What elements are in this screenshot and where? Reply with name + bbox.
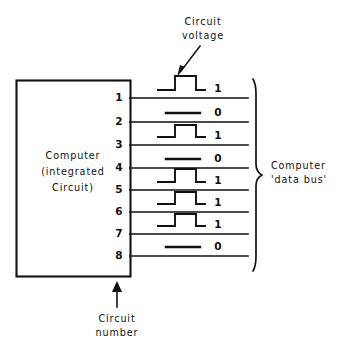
bit-value-7: 1 <box>214 218 221 230</box>
pin-number-8: 8 <box>115 249 123 261</box>
waveform-pulse-5 <box>158 169 205 182</box>
pin-number-5: 5 <box>115 183 123 195</box>
waveform-pulse-6 <box>158 192 205 204</box>
computer-ic-box <box>17 81 131 277</box>
circuit-number-arrow-icon <box>112 281 122 292</box>
diagram-canvas: Computer (integrated Circuit) 1 1 2 0 3 … <box>0 0 343 347</box>
waveform-pulse-7 <box>158 214 205 226</box>
waveform-pulse-3 <box>158 125 205 137</box>
pin-number-4: 4 <box>115 161 123 173</box>
diagram-root: Computer (integrated Circuit) 1 1 2 0 3 … <box>0 0 343 347</box>
bit-value-2: 0 <box>214 106 221 118</box>
computer-label-line-2: (integrated <box>41 166 105 177</box>
computer-label-line-3: Circuit) <box>52 182 94 193</box>
circuit-number-label-line-2: number <box>96 327 139 338</box>
data-bus-brace <box>253 79 262 271</box>
circuit-voltage-label-line-2: voltage <box>182 30 224 41</box>
bit-value-3: 1 <box>214 129 221 141</box>
circuit-voltage-label-line-1: Circuit <box>184 16 221 27</box>
data-bus-label-line-2: 'data bus' <box>271 174 327 185</box>
bit-value-6: 1 <box>214 196 221 208</box>
bit-value-1: 1 <box>214 82 221 94</box>
data-bus-label-line-1: Computer <box>271 160 326 171</box>
pin-number-7: 7 <box>115 227 123 239</box>
pin-number-6: 6 <box>115 205 123 217</box>
circuit-number-label-line-1: Circuit <box>98 313 135 324</box>
pin-number-2: 2 <box>115 115 123 127</box>
computer-label-line-1: Computer <box>46 150 101 161</box>
pin-number-1: 1 <box>115 91 123 103</box>
waveform-pulse-1 <box>158 76 205 90</box>
bit-value-5: 1 <box>214 174 221 186</box>
bit-value-4: 0 <box>214 152 221 164</box>
bit-value-8: 0 <box>214 240 221 252</box>
pin-number-3: 3 <box>115 138 123 150</box>
